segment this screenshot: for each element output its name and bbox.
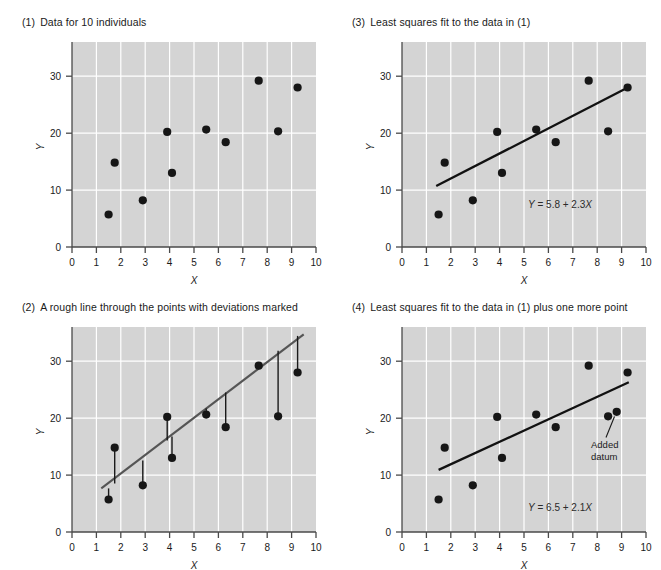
y-ticks: [66, 361, 72, 532]
data-point: [294, 368, 302, 376]
x-tick-8: 8: [264, 542, 270, 553]
panel-1-plot: 0 1 2 3 4 5 6 7 8 9 10 0 10: [22, 30, 322, 292]
x-tick-4: 4: [167, 257, 173, 268]
x-tick-10: 10: [310, 257, 322, 268]
y-tick-0: 0: [55, 527, 61, 538]
x-tick-labels: 0 1 2 3 4 5 6 7 8 9 10: [399, 257, 652, 268]
x-tick-6: 6: [546, 257, 552, 268]
data-point: [624, 83, 632, 91]
equation-body: = 5.8 + 2.3: [535, 199, 586, 210]
y-tick-30: 30: [380, 71, 392, 82]
data-point: [441, 159, 449, 167]
equation-rhs: X: [584, 199, 592, 210]
y-ticks: [396, 361, 402, 532]
x-tick-8: 8: [594, 542, 600, 553]
y-tick-30: 30: [50, 71, 62, 82]
data-point: [168, 454, 176, 462]
y-tick-20: 20: [380, 413, 392, 424]
panel-2-svg: 0 1 2 3 4 5 6 7 8 9 10 0 10: [22, 315, 322, 570]
x-axis-label: X: [190, 275, 198, 286]
y-axis-label: Y: [35, 427, 46, 435]
data-point: [469, 196, 477, 204]
x-tick-10: 10: [640, 542, 652, 553]
y-axis-label: Y: [365, 142, 376, 150]
data-point: [105, 210, 113, 218]
y-axis-label: Y: [365, 427, 376, 435]
panel-4-title: (4)Least squares fit to the data in (1) …: [352, 301, 628, 313]
added-datum-label-line2: datum: [591, 451, 617, 462]
x-tick-0: 0: [69, 542, 75, 553]
x-tick-7: 7: [240, 257, 246, 268]
x-tick-labels: 0 1 2 3 4 5 6 7 8 9 10: [399, 542, 652, 553]
y-tick-0: 0: [385, 242, 391, 253]
y-tick-20: 20: [50, 413, 62, 424]
data-point: [163, 128, 171, 136]
x-tick-9: 9: [619, 257, 625, 268]
x-tick-3: 3: [142, 542, 148, 553]
x-axis-label: X: [520, 560, 528, 570]
data-point: [552, 423, 560, 431]
x-tick-1: 1: [424, 542, 430, 553]
panel-4-number: (4): [352, 301, 365, 313]
data-point: [493, 128, 501, 136]
y-tick-0: 0: [55, 242, 61, 253]
x-tick-4: 4: [497, 542, 503, 553]
equation-rhs: X: [584, 502, 592, 513]
x-ticks: [402, 247, 646, 253]
y-tick-labels: 0 10 20 30: [380, 71, 392, 253]
x-tick-2: 2: [448, 257, 454, 268]
data-point: [469, 481, 477, 489]
data-point: [274, 412, 282, 420]
x-tick-1: 1: [94, 257, 100, 268]
x-tick-labels: 0 1 2 3 4 5 6 7 8 9 10: [69, 257, 322, 268]
data-point: [604, 412, 612, 420]
data-point: [552, 138, 560, 146]
y-tick-20: 20: [50, 128, 62, 139]
data-point: [139, 481, 147, 489]
equation-body: = 6.5 + 2.1: [535, 502, 586, 513]
y-tick-10: 10: [50, 185, 62, 196]
panel-1-svg: 0 1 2 3 4 5 6 7 8 9 10 0 10: [22, 30, 322, 292]
panel-1-plotarea: 0 1 2 3 4 5 6 7 8 9 10 0 10: [35, 42, 322, 286]
x-tick-labels: 0 1 2 3 4 5 6 7 8 9 10: [69, 542, 322, 553]
y-tick-labels: 0 10 20 30: [50, 71, 62, 253]
x-tick-3: 3: [142, 257, 148, 268]
x-tick-9: 9: [289, 542, 295, 553]
x-tick-7: 7: [570, 542, 576, 553]
x-tick-6: 6: [216, 257, 222, 268]
added-datum-label-line1: Added: [591, 439, 618, 450]
y-tick-10: 10: [50, 470, 62, 481]
y-tick-0: 0: [385, 527, 391, 538]
x-tick-3: 3: [472, 542, 478, 553]
x-ticks: [402, 532, 646, 538]
panel-1-caption: Data for 10 individuals: [40, 16, 146, 28]
x-tick-10: 10: [310, 542, 322, 553]
data-point: [139, 196, 147, 204]
panel-2-caption: A rough line through the points with dev…: [40, 301, 298, 313]
panel-3-number: (3): [352, 16, 365, 28]
x-tick-6: 6: [216, 542, 222, 553]
y-ticks: [396, 76, 402, 247]
y-tick-labels: 0 10 20 30: [50, 356, 62, 538]
x-tick-4: 4: [167, 542, 173, 553]
x-tick-1: 1: [94, 542, 100, 553]
x-tick-0: 0: [399, 542, 405, 553]
data-point: [435, 210, 443, 218]
y-tick-labels: 0 10 20 30: [380, 356, 392, 538]
y-tick-10: 10: [380, 185, 392, 196]
data-point: [441, 444, 449, 452]
y-tick-20: 20: [380, 128, 392, 139]
data-point: [222, 423, 230, 431]
panel-4-plotarea: 0 1 2 3 4 5 6 7 8 9 10 0 10: [365, 327, 652, 570]
x-tick-0: 0: [69, 257, 75, 268]
x-tick-10: 10: [640, 257, 652, 268]
data-point: [222, 138, 230, 146]
data-point: [255, 77, 263, 85]
x-ticks: [72, 247, 316, 253]
data-point: [294, 83, 302, 91]
y-ticks: [66, 76, 72, 247]
data-point: [105, 495, 113, 503]
data-point: [498, 454, 506, 462]
data-point: [585, 77, 593, 85]
data-point: [163, 413, 171, 421]
